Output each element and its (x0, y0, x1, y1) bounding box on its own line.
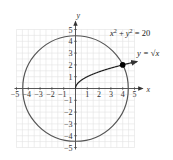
y-tick-label: 2 (69, 61, 73, 70)
y-tick-label: 1 (69, 73, 73, 82)
y-tick-label: −2 (64, 108, 73, 117)
sqrt-equation-label: y = √x (136, 48, 159, 58)
y-tick-label: 3 (69, 49, 73, 58)
y-tick-label: −4 (64, 132, 73, 141)
x-tick-label: −5 (11, 90, 20, 99)
y-tick-label: 4 (69, 37, 73, 46)
x-tick-label: 2 (97, 90, 101, 99)
x-tick-label: −3 (34, 90, 43, 99)
x-tick-label: 3 (109, 90, 113, 99)
intersection-point (120, 62, 126, 68)
x-axis-label: x (146, 85, 151, 94)
tick-labels: −5−4−3−2−112345−5−4−3−2−112345 (11, 26, 137, 153)
y-tick-label: 5 (69, 26, 73, 35)
circle-equation-part: = 20 (133, 28, 151, 38)
y-axis-label: y (76, 11, 81, 20)
y-tick-label: −5 (64, 144, 73, 153)
chart: −5−4−3−2−112345−5−4−3−2−112345 x2 + y2 =… (0, 0, 173, 160)
y-tick-label: −3 (64, 120, 73, 129)
x-tick-label: 1 (85, 90, 89, 99)
x-tick-label: 5 (133, 90, 137, 99)
x-tick-label: 4 (121, 90, 125, 99)
circle-equation-label: x2 + y2 = 20 (109, 28, 150, 38)
points (120, 62, 126, 68)
circle-equation-part: + (117, 28, 126, 38)
x-tick-label: −2 (46, 90, 55, 99)
y-tick-label: −1 (64, 96, 73, 105)
axes (15, 22, 143, 150)
